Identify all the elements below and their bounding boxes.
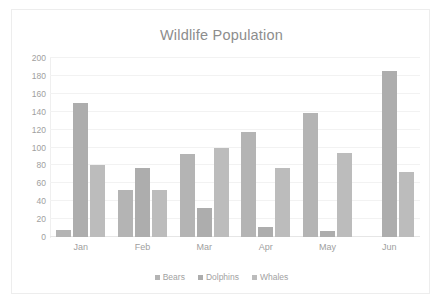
- y-axis-tick-label: 60: [16, 178, 46, 188]
- legend-item[interactable]: Dolphins: [198, 272, 239, 282]
- bar[interactable]: [258, 227, 273, 237]
- bar[interactable]: [118, 190, 133, 237]
- x-axis-tick-label: Jun: [382, 242, 397, 252]
- legend-swatch-icon: [155, 275, 160, 280]
- x-axis-tick-label: Feb: [135, 242, 151, 252]
- y-axis-tick-label: 160: [16, 89, 46, 99]
- x-axis-tick-labels: JanFebMarAprMayJun: [50, 242, 420, 258]
- legend-label: Whales: [260, 272, 288, 282]
- y-axis-tick-label: 180: [16, 71, 46, 81]
- y-axis-tick-label: 80: [16, 160, 46, 170]
- bar-group: [235, 58, 297, 237]
- bar[interactable]: [135, 168, 150, 237]
- x-axis-tick-label: Apr: [259, 242, 273, 252]
- bar[interactable]: [180, 154, 195, 237]
- bar[interactable]: [303, 113, 318, 237]
- y-axis-tick-label: 40: [16, 196, 46, 206]
- bar[interactable]: [275, 168, 290, 237]
- bar[interactable]: [90, 165, 105, 237]
- y-axis-tick-label: 20: [16, 214, 46, 224]
- plot-area: [50, 58, 420, 237]
- y-axis-tick-label: 100: [16, 143, 46, 153]
- legend-label: Dolphins: [206, 272, 239, 282]
- bar[interactable]: [56, 230, 71, 237]
- bar[interactable]: [241, 132, 256, 237]
- bar-group: [112, 58, 174, 237]
- bar[interactable]: [320, 231, 335, 237]
- bar-group: [297, 58, 359, 237]
- legend-item[interactable]: Whales: [252, 272, 288, 282]
- y-axis-tick-labels: 020406080100120140160180200: [12, 58, 46, 237]
- x-axis-tick-label: Mar: [196, 242, 212, 252]
- y-axis-tick-label: 140: [16, 107, 46, 117]
- bar[interactable]: [73, 103, 88, 237]
- x-axis-tick-label: May: [319, 242, 336, 252]
- bar[interactable]: [382, 71, 397, 237]
- bar[interactable]: [337, 153, 352, 237]
- legend-label: Bears: [163, 272, 185, 282]
- chart-container: Wildlife Population 02040608010012014016…: [11, 9, 430, 294]
- bar[interactable]: [399, 172, 414, 237]
- chart-title: Wildlife Population: [12, 27, 431, 43]
- y-axis-tick-label: 200: [16, 53, 46, 63]
- y-axis-tick-label: 0: [16, 232, 46, 242]
- bar[interactable]: [214, 148, 229, 238]
- bar[interactable]: [197, 208, 212, 237]
- bar[interactable]: [152, 190, 167, 237]
- chart-legend: BearsDolphinsWhales: [12, 272, 431, 282]
- legend-swatch-icon: [198, 275, 203, 280]
- legend-item[interactable]: Bears: [155, 272, 185, 282]
- bar-group: [50, 58, 112, 237]
- x-axis-tick-label: Jan: [74, 242, 89, 252]
- y-axis-tick-label: 120: [16, 125, 46, 135]
- bar-group: [173, 58, 235, 237]
- legend-swatch-icon: [252, 275, 257, 280]
- bar-group: [358, 58, 420, 237]
